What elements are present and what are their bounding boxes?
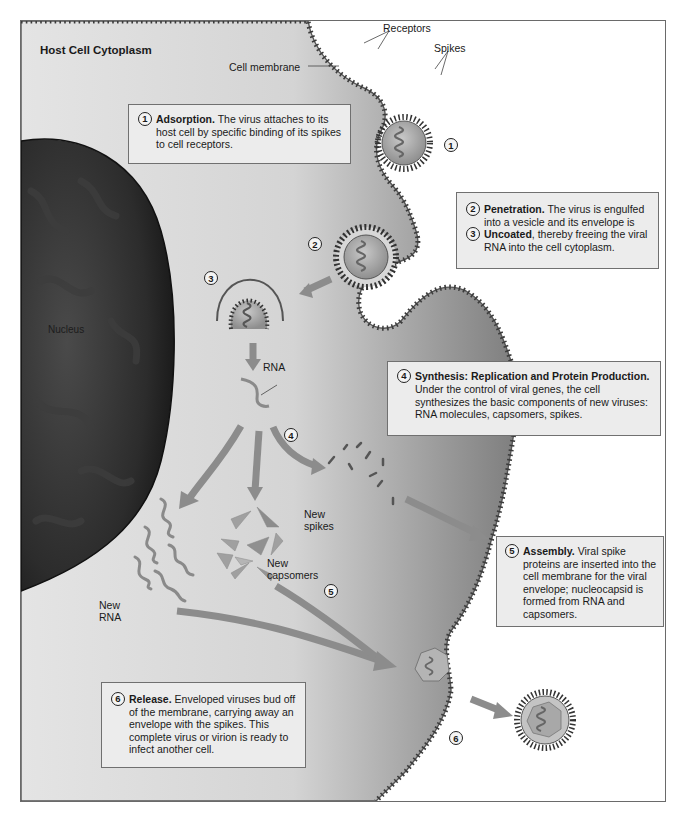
assembly-callout: 5 Assembly. Viral spike proteins are ins…	[496, 536, 664, 627]
step-marker-5: 5	[324, 584, 338, 598]
penetration-heading: Penetration.	[484, 203, 545, 215]
step-marker-6: 6	[449, 731, 463, 745]
synthesis-callout: 4 Synthesis: Replication and Protein Pro…	[387, 361, 661, 436]
spikes-label: Spikes	[434, 42, 466, 54]
new-capsomers-label: New capsomers	[267, 557, 318, 581]
step-number-4: 4	[397, 369, 411, 383]
adsorption-heading: Adsorption.	[156, 113, 215, 125]
release-callout: 6 Release. Enveloped viruses bud off of …	[101, 682, 306, 768]
spikes-leader-2	[441, 51, 448, 75]
step-marker-4: 4	[284, 428, 298, 442]
virus-adsorbing	[378, 117, 430, 169]
new-spikes-label: New spikes	[304, 508, 334, 532]
diagram-frame: Host Cell Cytoplasm Cell membrane Recept…	[20, 20, 666, 802]
step-marker-1: 1	[444, 138, 458, 152]
diagram-title: Host Cell Cytoplasm	[40, 44, 152, 56]
step-number-5: 5	[505, 544, 519, 558]
released-virion	[517, 692, 573, 748]
new-rna-label: New RNA	[99, 599, 121, 623]
receptors-label: Receptors	[383, 22, 431, 34]
nucleus-label: Nucleus	[48, 324, 84, 335]
uncoating-heading: Uncoated	[484, 228, 532, 240]
step-marker-3: 3	[204, 271, 218, 285]
synthesis-heading: Synthesis: Replication and Protein Produ…	[415, 370, 650, 382]
step-number-1: 1	[138, 112, 152, 126]
step-number-2: 2	[466, 202, 480, 216]
rna-label: RNA	[263, 361, 285, 373]
virus-penetrating	[336, 227, 396, 287]
assembly-heading: Assembly.	[523, 545, 575, 557]
release-heading: Release.	[129, 693, 172, 705]
step-marker-2: 2	[308, 237, 322, 251]
synthesis-text: Under the control of viral genes, the ce…	[397, 383, 652, 421]
step-number-6: 6	[111, 692, 125, 706]
step-number-3: 3	[466, 227, 480, 241]
cell-membrane-label: Cell membrane	[229, 61, 300, 73]
adsorption-callout: 1 Adsorption. The virus attaches to its …	[128, 104, 351, 164]
penetration-uncoating-callout: 2 Penetration. The virus is engulfed int…	[456, 192, 659, 269]
